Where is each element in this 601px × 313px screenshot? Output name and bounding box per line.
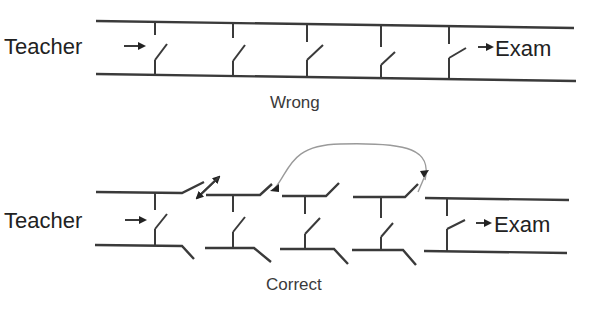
wrong-diagram: Teacher Exam — [4, 21, 576, 112]
correct-caption: Correct — [266, 275, 322, 294]
wrong-caption: Wrong — [270, 93, 320, 112]
correct-input-label: Teacher — [4, 208, 82, 233]
curved-arrow-icon — [275, 144, 426, 188]
switch — [449, 26, 466, 80]
correct-diagram: Teacher — [4, 144, 569, 294]
segment-3 — [280, 183, 348, 264]
switch — [307, 24, 323, 77]
segment-1 — [95, 182, 204, 259]
segment-2 — [205, 184, 272, 262]
bottom-rail — [96, 74, 576, 81]
circuit-diagrams: Teacher Exam — [0, 0, 601, 313]
wrong-output-label: Exam — [495, 36, 551, 61]
arrowhead-icon — [420, 170, 429, 178]
arc-tail — [418, 178, 424, 192]
correct-output-label: Exam — [494, 212, 550, 237]
switch — [381, 25, 395, 78]
top-rail — [96, 21, 574, 28]
switch — [155, 22, 167, 74]
segment-4 — [352, 184, 418, 265]
wrong-input-label: Teacher — [4, 34, 82, 59]
switch — [233, 23, 245, 75]
